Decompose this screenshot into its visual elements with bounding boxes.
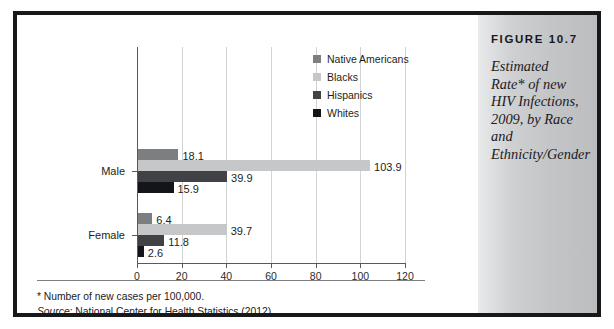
x-axis-tick [137,263,138,268]
legend-item-blacks: Blacks [313,69,409,85]
legend-item-hispanics: Hispanics [313,87,409,103]
legend-item-label: Hispanics [327,89,373,101]
bar [138,182,174,193]
source-text: : National Center for Health Statistics … [70,306,274,317]
bar-value-label: 2.6 [148,247,163,259]
bar [138,246,144,257]
legend-item-label: Blacks [327,71,358,83]
y-axis-line [137,47,138,263]
x-axis-tick [226,263,227,268]
bar [138,235,164,246]
bar [138,213,152,224]
bar-value-label: 103.9 [374,161,402,173]
source-label: Source [37,306,70,317]
bar [138,149,178,160]
x-axis-tick [271,263,272,268]
gridline [271,47,272,263]
figure-caption: Estimated Rate* of new HIV Infections, 2… [491,58,585,164]
x-axis-tick [182,263,183,268]
legend-item-native-americans: Native Americans [313,51,409,67]
bar [138,171,227,182]
category-label: Female [88,229,125,241]
legend-swatch-icon [313,73,321,81]
x-axis-tick [360,263,361,268]
footnote-line: * Number of new cases per 100,000. [37,289,457,304]
bar [138,224,227,235]
chart-legend: Native Americans Blacks Hispanics Whites [313,51,409,123]
bar-value-label: 15.9 [178,183,199,195]
bar-value-label: 39.7 [231,225,252,237]
bar-value-label: 11.8 [168,236,189,248]
category-label: Male [101,165,125,177]
bar-value-label: 39.9 [231,172,252,184]
source-line: Source: National Center for Health Stati… [37,304,457,319]
x-axis-tick [405,263,406,268]
bar-value-label: 18.1 [182,150,203,162]
legend-item-label: Native Americans [327,53,409,65]
legend-item-label: Whites [327,107,359,119]
y-axis-tick [132,171,137,172]
notes-divider [37,280,425,281]
legend-swatch-icon [313,109,321,117]
legend-swatch-icon [313,55,321,63]
figure-number: FIGURE 10.7 [491,33,585,45]
caption-panel: FIGURE 10.7 Estimated Rate* of new HIV I… [478,15,597,313]
figure-frame: 020406080100120Male18.1103.939.915.9Fema… [13,11,601,317]
x-axis-tick [316,263,317,268]
figure-notes: * Number of new cases per 100,000. Sourc… [37,289,457,319]
chart-area: 020406080100120Male18.1103.939.915.9Fema… [17,15,486,313]
legend-swatch-icon [313,91,321,99]
bar [138,160,370,171]
figure-root: 020406080100120Male18.1103.939.915.9Fema… [0,0,614,329]
bar-value-label: 6.4 [156,214,171,226]
legend-item-whites: Whites [313,105,409,121]
y-axis-tick [132,235,137,236]
